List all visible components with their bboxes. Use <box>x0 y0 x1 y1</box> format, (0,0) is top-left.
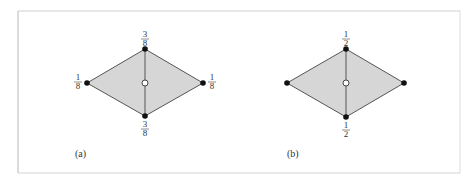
svg-text:8: 8 <box>210 81 215 91</box>
svg-text:8: 8 <box>143 128 148 138</box>
node-left-b <box>284 80 290 86</box>
node-right-a <box>200 80 206 86</box>
node-center-b <box>343 80 349 86</box>
figure: 3 8 1 8 1 8 3 8 (a) 1 <box>0 0 476 179</box>
node-bottom-a <box>142 113 148 119</box>
weight-top-b: 1 2 <box>342 29 350 48</box>
panel-label-a: (a) <box>75 148 86 160</box>
weight-top-a: 3 8 <box>141 29 149 48</box>
node-bottom-b <box>343 114 349 120</box>
node-center-a <box>142 80 148 86</box>
weight-bottom-b: 1 2 <box>342 120 350 139</box>
svg-text:8: 8 <box>76 81 81 91</box>
panel-b: 1 2 1 2 (b) <box>284 29 407 160</box>
panel-a: 3 8 1 8 1 8 3 8 (a) <box>74 29 216 160</box>
svg-text:8: 8 <box>143 38 148 48</box>
node-left-a <box>84 80 90 86</box>
weight-right-a: 1 8 <box>208 72 216 91</box>
weight-left-a: 1 8 <box>74 72 82 91</box>
svg-text:2: 2 <box>344 129 349 139</box>
svg-text:2: 2 <box>344 38 349 48</box>
node-right-b <box>401 80 407 86</box>
weight-bottom-a: 3 8 <box>141 119 149 138</box>
panel-label-b: (b) <box>287 148 299 160</box>
